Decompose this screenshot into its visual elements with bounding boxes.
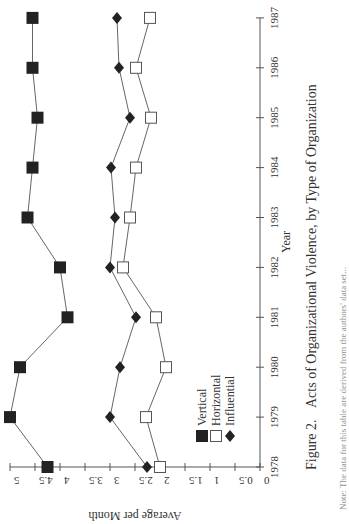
data-point-open-square	[118, 262, 129, 273]
data-point-filled-square	[27, 162, 39, 174]
legend-label-vertical: Vertical	[195, 388, 209, 426]
data-point-filled-square	[62, 311, 74, 323]
year-tick-label: 1984	[268, 156, 280, 179]
year-tick-label: 1987	[268, 6, 280, 29]
data-point-filled-diamond	[115, 361, 125, 373]
data-series	[4, 12, 172, 473]
value-tick-label: 1	[214, 475, 220, 487]
year-tick-label: 1986	[268, 56, 280, 79]
data-point-filled-square	[54, 261, 66, 273]
year-tick-label: 1981	[268, 306, 280, 328]
data-point-open-square	[145, 12, 156, 23]
legend-marker-filled-diamond	[225, 430, 235, 442]
data-point-open-square	[146, 112, 157, 123]
figure-note: Note: The data for this table are derive…	[338, 267, 348, 510]
series-horizontal	[118, 12, 172, 472]
value-tick-label: 1.5	[189, 475, 203, 487]
legend: VerticalHorizontalInfluential	[195, 374, 237, 442]
data-point-filled-diamond	[105, 261, 115, 273]
value-tick-label: 5	[14, 475, 20, 487]
data-point-filled-diamond	[106, 162, 116, 174]
value-tick-label: 3.5	[89, 475, 103, 487]
figure-chart: 00.511.522.533.544.551978197919801981198…	[0, 0, 349, 524]
data-point-filled-diamond	[131, 311, 141, 323]
data-point-filled-diamond	[112, 12, 122, 24]
data-point-open-square	[125, 212, 136, 223]
legend-marker-open-square	[211, 431, 222, 442]
legend-marker-filled-square	[196, 430, 208, 442]
data-point-filled-diamond	[114, 62, 124, 74]
figure-number: Figure 2.	[304, 419, 319, 470]
value-tick-label: 4	[64, 475, 70, 487]
data-point-filled-diamond	[125, 112, 135, 124]
data-point-filled-square	[4, 411, 16, 423]
value-tick-label: 2	[164, 475, 170, 487]
series-vertical	[4, 12, 74, 473]
data-point-filled-square	[42, 461, 54, 473]
value-tick-label: 0.5	[239, 475, 253, 487]
year-tick-label: 1982	[268, 256, 280, 278]
data-point-filled-diamond	[110, 212, 120, 224]
figure-caption: Acts of Organizational Violence, by Type…	[304, 84, 319, 408]
series-line	[10, 18, 68, 467]
year-tick-label: 1983	[268, 206, 280, 229]
labels: Average per Month Year Figure 2. Acts of…	[88, 84, 348, 523]
data-point-open-square	[141, 412, 152, 423]
y-axis-label: Average per Month	[88, 509, 181, 523]
value-tick-label: 4.5	[39, 475, 53, 487]
value-tick-label: 3	[114, 475, 120, 487]
legend-label-influential: Influential	[223, 375, 237, 426]
data-point-filled-square	[27, 12, 39, 24]
year-tick-label: 1985	[268, 106, 280, 129]
year-tick-label: 1980	[268, 356, 280, 379]
data-point-filled-square	[14, 361, 26, 373]
data-point-filled-square	[27, 62, 39, 74]
series-line	[123, 18, 166, 467]
series-influential	[105, 12, 152, 473]
x-axis-label: Year	[279, 231, 293, 253]
data-point-filled-square	[22, 212, 34, 224]
year-tick-label: 1979	[268, 406, 280, 429]
data-point-open-square	[151, 312, 162, 323]
data-point-open-square	[131, 162, 142, 173]
value-tick-label: 2.5	[139, 475, 153, 487]
year-tick-label: 1978	[268, 456, 280, 479]
data-point-open-square	[155, 462, 166, 473]
legend-label-horizontal: Horizontal	[209, 374, 223, 426]
data-point-open-square	[131, 62, 142, 73]
data-point-open-square	[161, 362, 172, 373]
data-point-filled-square	[32, 112, 44, 124]
